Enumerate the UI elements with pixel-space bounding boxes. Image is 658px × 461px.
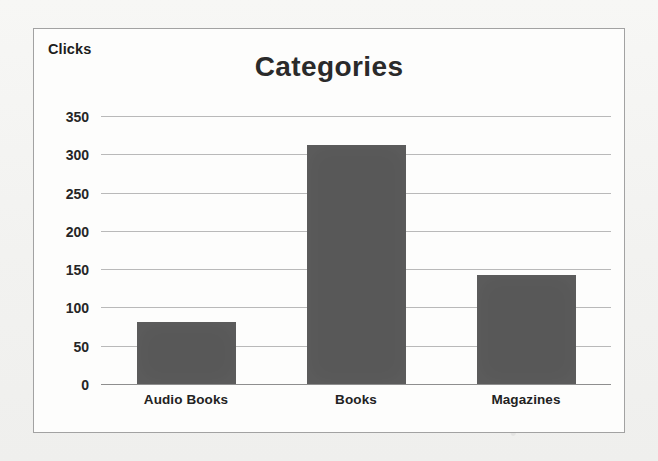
bar-slot (101, 116, 271, 384)
bar (307, 145, 406, 384)
bar (137, 322, 236, 384)
chart-container: Clicks Categories 350300250200150100500 … (33, 28, 625, 433)
y-axis-tick-label: 300 (66, 147, 89, 163)
y-axis-tick-label: 200 (66, 224, 89, 240)
gridline: 0 (101, 384, 611, 385)
y-axis-tick-label: 50 (73, 339, 89, 355)
plot-area: 350300250200150100500 (101, 88, 611, 384)
chart-title: Categories (34, 51, 624, 83)
x-axis-category-label: Audio Books (101, 392, 271, 407)
y-axis-tick-label: 0 (81, 377, 89, 393)
x-axis-category-label: Magazines (441, 392, 611, 407)
y-axis-tick-label: 350 (66, 109, 89, 125)
x-axis-category-label: Books (271, 392, 441, 407)
y-axis-tick-label: 150 (66, 262, 89, 278)
x-axis-labels: Audio BooksBooksMagazines (101, 392, 611, 407)
y-axis-tick-label: 250 (66, 186, 89, 202)
bar (477, 275, 576, 384)
y-axis-tick-label: 100 (66, 300, 89, 316)
bars-group (101, 116, 611, 384)
bar-slot (271, 116, 441, 384)
plot-inner: 350300250200150100500 (101, 116, 611, 384)
bar-slot (441, 116, 611, 384)
